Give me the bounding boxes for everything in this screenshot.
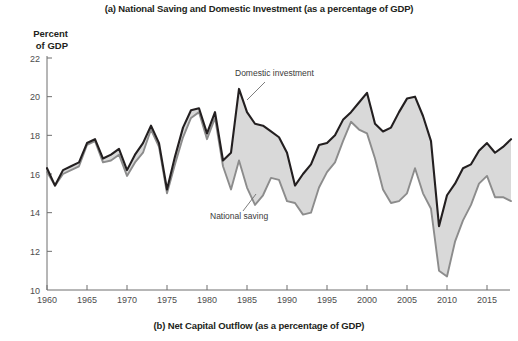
x-tick-label-1975: 1975	[157, 295, 177, 305]
x-tick-label-2010: 2010	[437, 295, 457, 305]
x-tick-label-2015: 2015	[477, 295, 497, 305]
annotation-domestic-investment: Domestic investment	[235, 68, 315, 78]
x-tick-label-1970: 1970	[117, 295, 137, 305]
y-tick-label-10: 10	[30, 286, 40, 296]
x-tick-label-2000: 2000	[357, 295, 377, 305]
area-band-between-series	[47, 89, 511, 277]
y-tick-label-16: 16	[30, 170, 40, 180]
x-tick-label-1995: 1995	[317, 295, 337, 305]
figure-container: (a) National Saving and Domestic Investm…	[0, 0, 518, 341]
y-tick-label-22: 22	[30, 54, 40, 64]
y-tick-label-14: 14	[30, 208, 40, 218]
chart-plot: 1012141618202219601965197019751980198519…	[0, 0, 518, 341]
x-tick-label-1990: 1990	[277, 295, 297, 305]
x-tick-label-2005: 2005	[397, 295, 417, 305]
annotation-national-saving: National saving	[210, 211, 268, 221]
panel-b-title: (b) Net Capital Outflow (as a percentage…	[0, 320, 518, 331]
y-tick-label-18: 18	[30, 131, 40, 141]
x-tick-label-1965: 1965	[77, 295, 97, 305]
x-tick-label-1980: 1980	[197, 295, 217, 305]
x-tick-label-1985: 1985	[237, 295, 257, 305]
leader-line-domestic-investment	[247, 82, 265, 100]
y-tick-label-12: 12	[30, 247, 40, 257]
y-tick-label-20: 20	[30, 92, 40, 102]
x-tick-label-1960: 1960	[37, 295, 57, 305]
